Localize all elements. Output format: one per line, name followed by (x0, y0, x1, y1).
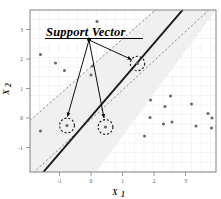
y-tick-label: 1 (20, 86, 23, 92)
data-point-support-vector (65, 124, 68, 127)
data-point (39, 53, 42, 56)
x-tick-label: 2 (153, 178, 156, 184)
x-axis-tick-labels: -1 0 1 2 3 (57, 178, 187, 184)
data-point (162, 122, 165, 125)
data-point (170, 120, 173, 123)
y-tick-label: -1 (19, 145, 24, 151)
x-axis-title-text: X (111, 188, 118, 197)
data-point (206, 112, 209, 115)
y-tick-label: 3 (20, 27, 23, 33)
data-point (194, 124, 197, 127)
y-tick-label: 0 (20, 115, 23, 121)
data-point (54, 61, 57, 64)
support-vector-annotation-label: Support Vector (46, 25, 126, 39)
y-axis-title-text: X (2, 89, 11, 96)
data-point (210, 116, 213, 119)
data-point (95, 20, 98, 23)
data-point (63, 69, 66, 72)
x-tick-label: 0 (90, 178, 93, 184)
svm-scatter-plot: Support Vector -1 0 1 2 3 3 2 (0, 0, 221, 199)
data-point (169, 94, 172, 97)
data-point (163, 105, 166, 108)
data-point (148, 116, 151, 119)
x-axis-title: X 1 (111, 188, 125, 199)
data-point (89, 73, 92, 76)
data-point (190, 102, 193, 105)
data-point (149, 98, 152, 101)
y-axis-ticks (26, 30, 30, 148)
y-axis-title-subscript: 2 (4, 83, 13, 88)
data-point (39, 129, 42, 132)
y-tick-label: 2 (20, 56, 23, 62)
x-tick-label: 3 (184, 178, 187, 184)
x-axis-ticks (60, 172, 186, 176)
support-vector-machine-figure: Support Vector -1 0 1 2 3 3 2 (0, 0, 221, 199)
y-axis-title: X 2 (2, 83, 13, 96)
data-point-support-vector (104, 125, 107, 128)
data-point (143, 134, 146, 137)
x-tick-label: -1 (57, 178, 62, 184)
y-axis-tick-labels: 3 2 1 0 -1 (19, 27, 24, 151)
x-axis-title-subscript: 1 (121, 190, 125, 199)
data-point (210, 126, 213, 129)
data-point-support-vector (136, 62, 139, 65)
x-tick-label: 1 (121, 178, 124, 184)
